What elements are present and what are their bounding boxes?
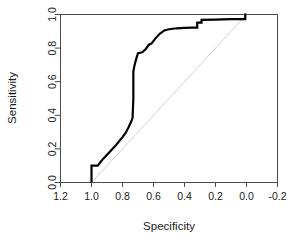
x-tick-label: 0.4 (177, 190, 192, 202)
roc-plot-figure: 1.21.00.80.60.40.20.0-0.2 0.00.20.40.60.… (0, 0, 298, 239)
y-tick-label: 0.2 (46, 141, 58, 156)
x-tick-label: 0.2 (208, 190, 223, 202)
y-tick-label: 0.8 (46, 41, 58, 56)
y-tick-label: 0.6 (46, 74, 58, 89)
roc-plot-canvas: 1.21.00.80.60.40.20.0-0.2 0.00.20.40.60.… (0, 0, 298, 239)
y-tick-label: 0.0 (46, 175, 58, 190)
y-tick-label: 0.4 (46, 108, 58, 123)
y-tick-label: 1.0 (46, 7, 58, 22)
x-tick-label: 1.2 (53, 190, 68, 202)
x-axis-title: Specificity (143, 220, 195, 232)
x-tick-label: 1.0 (84, 190, 99, 202)
x-tick-label: 0.8 (115, 190, 130, 202)
y-axis-title: Sensitivity (6, 72, 18, 124)
x-tick-label: 0.6 (146, 190, 161, 202)
x-tick-label: -0.2 (268, 190, 286, 202)
x-tick-label: 0.0 (239, 190, 254, 202)
